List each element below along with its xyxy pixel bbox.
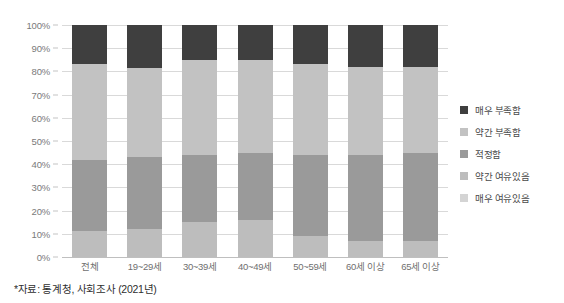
legend-item[interactable]: 약간 여유있음 [460, 165, 564, 187]
bar-segment[interactable] [348, 155, 383, 241]
legend-item[interactable]: 약간 부족함 [460, 121, 564, 143]
y-axis-tick-label: 100% [27, 20, 51, 31]
bar-group[interactable] [127, 25, 162, 257]
x-axis-tick-label: 40~49세 [227, 259, 282, 273]
y-axis-tick [53, 94, 58, 95]
x-axis-tick-label: 19~29세 [117, 259, 172, 273]
y-axis-tick [53, 117, 58, 118]
bar-segment[interactable] [348, 67, 383, 155]
legend-item-label: 약간 부족함 [475, 125, 521, 139]
y-axis-tick [53, 25, 58, 26]
bar-group[interactable] [348, 25, 383, 257]
bar-segment[interactable] [238, 153, 273, 220]
bar-stack [72, 25, 107, 257]
y-axis-tick-label: 10% [32, 228, 50, 239]
legend: 매우 부족함약간 부족함적정함약간 여유있음매우 여유있음 [460, 99, 564, 209]
y-axis-tick [53, 257, 58, 258]
source-note: *자료: 통계청, 사회조사 (2021년) [14, 281, 156, 296]
bar-group[interactable] [182, 25, 217, 257]
x-axis-tick-label: 60세 이상 [338, 259, 393, 273]
y-axis-labels: 100%90%80%70%60%50%40%30%20%10%0% [0, 25, 58, 257]
bar-segment[interactable] [293, 64, 328, 154]
y-axis-tick-label: 80% [32, 66, 50, 77]
gridline [62, 257, 448, 258]
y-axis-tick-label: 90% [32, 43, 50, 54]
bar-segment[interactable] [182, 60, 217, 155]
bar-segment[interactable] [182, 222, 217, 257]
legend-swatch-icon [460, 194, 468, 202]
x-axis-tick-label: 50~59세 [283, 259, 338, 273]
y-axis-tick-label: 60% [32, 112, 50, 123]
bar-segment[interactable] [182, 155, 217, 222]
bar-segment[interactable] [72, 231, 107, 257]
y-axis-tick-label: 20% [32, 205, 50, 216]
x-axis-labels: 전체19~29세30~39세40~49세50~59세60세 이상65세 이상 [62, 259, 448, 279]
bars-layer [62, 25, 448, 257]
legend-item[interactable]: 매우 여유있음 [460, 187, 564, 209]
legend-swatch-icon [460, 106, 468, 114]
bar-group[interactable] [403, 25, 438, 257]
bar-segment[interactable] [293, 25, 328, 64]
y-axis-tick [53, 71, 58, 72]
bar-segment[interactable] [348, 241, 383, 257]
y-axis-tick-label: 40% [32, 159, 50, 170]
chart-root: 100%90%80%70%60%50%40%30%20%10%0% 전체19~2… [0, 0, 564, 303]
bar-segment[interactable] [72, 160, 107, 232]
bar-segment[interactable] [72, 64, 107, 159]
y-axis-tick [53, 48, 58, 49]
y-axis-tick [53, 210, 58, 211]
legend-item-label: 매우 부족함 [475, 103, 521, 117]
bar-segment[interactable] [182, 25, 217, 60]
bar-segment[interactable] [293, 236, 328, 257]
legend-item-label: 적정함 [475, 147, 501, 161]
y-axis-tick [53, 164, 58, 165]
bar-segment[interactable] [403, 25, 438, 67]
legend-swatch-icon [460, 172, 468, 180]
bar-stack [182, 25, 217, 257]
y-axis-tick-label: 70% [32, 89, 50, 100]
bar-segment[interactable] [403, 241, 438, 257]
bar-stack [403, 25, 438, 257]
bar-segment[interactable] [72, 25, 107, 64]
bar-segment[interactable] [348, 25, 383, 67]
bar-segment[interactable] [127, 25, 162, 68]
y-axis-tick-label: 50% [32, 136, 50, 147]
bar-segment[interactable] [238, 25, 273, 60]
bar-segment[interactable] [238, 220, 273, 257]
legend-item-label: 약간 여유있음 [475, 169, 530, 183]
plot-area [62, 25, 448, 257]
bar-segment[interactable] [403, 153, 438, 241]
x-axis-tick-label: 30~39세 [172, 259, 227, 273]
x-axis-tick-label: 65세 이상 [393, 259, 448, 273]
bar-segment[interactable] [127, 157, 162, 229]
y-axis-tick-label: 30% [32, 182, 50, 193]
bar-segment[interactable] [127, 229, 162, 257]
y-axis-tick-label: 0% [37, 252, 50, 263]
bar-stack [238, 25, 273, 257]
bar-segment[interactable] [403, 67, 438, 153]
legend-item-label: 매우 여유있음 [475, 191, 530, 205]
y-axis-tick [53, 141, 58, 142]
y-axis-tick [53, 187, 58, 188]
legend-item[interactable]: 매우 부족함 [460, 99, 564, 121]
legend-swatch-icon [460, 128, 468, 136]
y-axis-tick [53, 233, 58, 234]
bar-segment[interactable] [293, 155, 328, 236]
bar-stack [127, 25, 162, 257]
bar-segment[interactable] [127, 68, 162, 157]
bar-stack [348, 25, 383, 257]
legend-item[interactable]: 적정함 [460, 143, 564, 165]
x-axis-tick-label: 전체 [62, 259, 117, 273]
bar-stack [293, 25, 328, 257]
bar-group[interactable] [72, 25, 107, 257]
bar-segment[interactable] [238, 60, 273, 153]
bar-group[interactable] [293, 25, 328, 257]
legend-swatch-icon [460, 150, 468, 158]
bar-group[interactable] [238, 25, 273, 257]
